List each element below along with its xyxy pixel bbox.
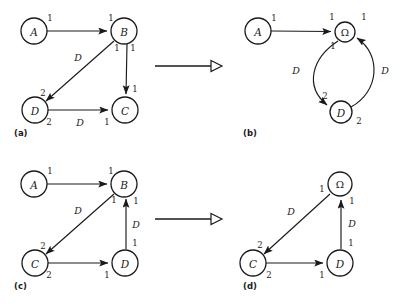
caption-a: (a)	[14, 128, 28, 138]
port-d-OM-in: 1	[349, 196, 354, 206]
caption-c: (c)	[14, 281, 27, 291]
port-d-C-in: 2	[257, 240, 262, 250]
port-c-B-in: 1	[108, 166, 113, 176]
node-d-C-label: C	[249, 258, 257, 270]
diagram-svg: A B D C 1 1 1 1 D 2 1 2 D 1 (a)	[0, 0, 403, 307]
caption-d: (d)	[243, 281, 257, 291]
port-a-B-in: 1	[108, 13, 113, 23]
edge-b-A-to-OM	[271, 31, 331, 32]
node-d-D-label: D	[335, 258, 345, 270]
port-c-D-out: 1	[132, 238, 137, 248]
node-a-D-label: D	[30, 105, 40, 117]
node-d-Omega-label: Ω	[336, 179, 344, 190]
caption-b: (b)	[243, 128, 257, 138]
node-c-A-label: A	[29, 179, 38, 191]
port-b-A-out: 1	[271, 13, 276, 23]
port-a-C-in-top: 1	[132, 84, 137, 94]
port-c-B-up-in: 1	[133, 196, 138, 206]
node-c-D-label: D	[120, 258, 130, 270]
edge-d-OM-to-C	[264, 194, 330, 254]
port-b-OM-in-left: 1	[329, 12, 334, 22]
edgelabel-a-D-to-C: D	[75, 117, 84, 128]
transform-arrow-top	[155, 61, 222, 72]
port-b-D-out: 2	[356, 116, 361, 126]
port-c-C-in: 2	[40, 241, 45, 251]
transform-arrow-bottom	[155, 214, 222, 225]
edge-c-B-to-C	[46, 194, 114, 254]
edgelabel-a-B-to-D: D	[73, 52, 82, 63]
edgelabel-c-D-to-B: D	[131, 219, 140, 230]
port-a-B-down-out: 1	[130, 43, 135, 53]
port-c-C-out: 2	[46, 270, 51, 280]
port-c-A-out: 1	[47, 166, 52, 176]
edge-a-B-to-D	[46, 41, 114, 101]
port-d-D-out: 1	[348, 238, 353, 248]
panel-d: Ω C D 1 1 D D 1 2 2 1 (d)	[240, 172, 356, 291]
panel-b: A Ω D 1 1 1 1 D D 2 2 (b)	[243, 12, 389, 138]
node-a-B-label: B	[119, 26, 128, 38]
port-c-B-diag-out: 1	[111, 195, 116, 205]
node-c-C-label: C	[31, 258, 39, 270]
edgelabel-d-OM-to-C: D	[286, 206, 295, 217]
node-c-B-label: B	[119, 179, 128, 191]
node-a-C-label: C	[121, 105, 129, 117]
port-b-OM-in-right: 1	[361, 12, 366, 22]
port-a-C-in: 1	[104, 117, 109, 127]
port-a-D-in: 2	[40, 88, 45, 98]
panel-c: A B C D 1 1 1 1 D D 1 2 2 1 (c)	[14, 166, 140, 291]
node-b-A-label: A	[253, 26, 262, 38]
node-b-D-label: D	[336, 107, 346, 119]
port-d-C-out: 2	[266, 270, 271, 280]
edge-b-D-to-OM	[351, 38, 374, 107]
port-d-OM-out: 1	[319, 184, 324, 194]
port-d-D-in: 1	[319, 270, 324, 280]
edgelabel-d-D-to-OM: D	[347, 218, 356, 229]
edge-a-B-to-C	[126, 44, 127, 94]
port-b-D-in: 2	[322, 91, 327, 101]
port-b-OM-out: 1	[330, 41, 335, 51]
edgelabel-b-right: D	[380, 65, 389, 76]
port-a-D-out: 2	[46, 117, 51, 127]
arrow-top-head-icon	[211, 61, 222, 72]
port-c-D-in: 1	[104, 270, 109, 280]
figure-canvas: A B D C 1 1 1 1 D 2 1 2 D 1 (a)	[0, 0, 403, 307]
panel-a: A B D C 1 1 1 1 D 2 1 2 D 1 (a)	[14, 13, 138, 138]
node-a-A-label: A	[29, 26, 38, 38]
port-a-B-diag-out: 1	[114, 43, 119, 53]
edgelabel-c-B-to-C: D	[73, 205, 82, 216]
port-a-A-out: 1	[47, 13, 52, 23]
node-b-Omega-label: Ω	[341, 27, 349, 38]
arrow-bottom-head-icon	[211, 214, 222, 225]
edgelabel-b-left: D	[291, 65, 300, 76]
